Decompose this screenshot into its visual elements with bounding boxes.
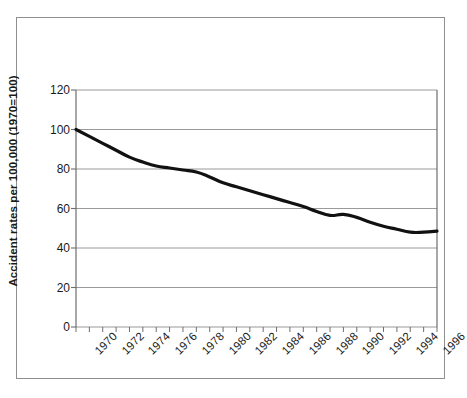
y-tick-label: 120: [36, 83, 70, 97]
y-tick-label: 0: [36, 320, 70, 334]
x-tick-label: 1970: [92, 330, 119, 357]
x-tick-label: 1980: [226, 330, 253, 357]
y-axis-tick-labels: 020406080100120: [28, 90, 70, 327]
x-tick-label: 1974: [146, 330, 173, 357]
y-tick-label: 40: [36, 241, 70, 255]
x-tick-label: 1994: [413, 330, 440, 357]
y-axis-title: Accident rates per 100,000 (1970=100): [7, 1, 19, 361]
y-tick-label: 100: [36, 123, 70, 137]
x-tick-label: 1972: [119, 330, 146, 357]
y-tick-label: 20: [36, 281, 70, 295]
x-tick-label: 1976: [173, 330, 200, 357]
x-tick-label: 1982: [253, 330, 280, 357]
gridlines: [76, 90, 437, 327]
x-axis-tick-labels: 1970197219741976197819801982198419861988…: [76, 330, 437, 380]
y-tick-label: 80: [36, 162, 70, 176]
x-tick-label: 1978: [199, 330, 226, 357]
line-chart-svg: [76, 90, 437, 327]
x-tick-label: 1986: [306, 330, 333, 357]
x-tick-label: 1992: [387, 330, 414, 357]
y-tick-label: 60: [36, 202, 70, 216]
x-tick-label: 1984: [280, 330, 307, 357]
x-tick-label: 1988: [333, 330, 360, 357]
data-series-line: [76, 130, 437, 233]
plot-area: [76, 90, 437, 327]
x-tick-label: 1990: [360, 330, 387, 357]
